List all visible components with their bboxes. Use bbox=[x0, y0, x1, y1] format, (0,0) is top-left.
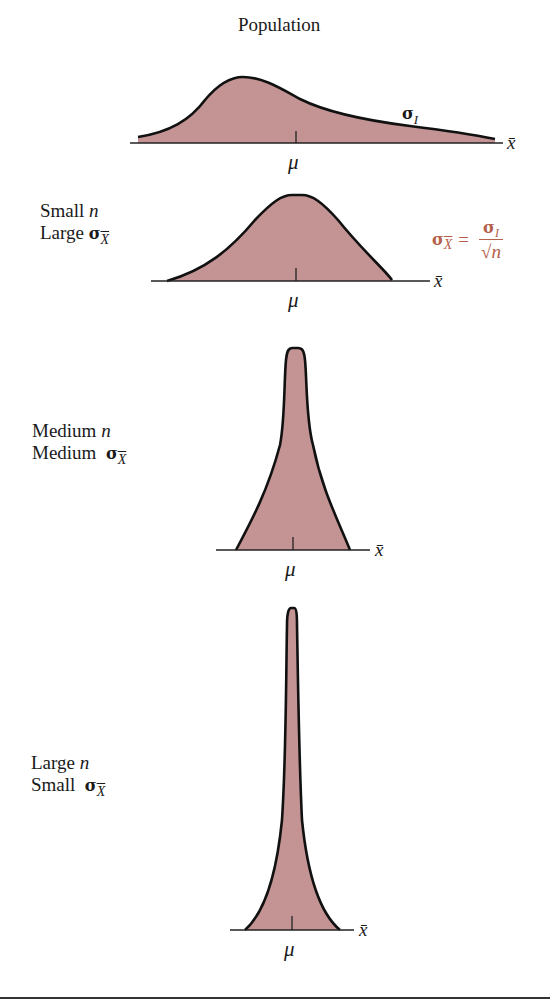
small-n-mean-label: μ bbox=[288, 288, 299, 313]
distribution-figure bbox=[0, 0, 550, 1004]
medium-n-mean-label: μ bbox=[285, 557, 296, 582]
small-n-distribution bbox=[151, 195, 430, 281]
population-title: Population bbox=[238, 14, 320, 36]
small-n-label: Small n Large σX bbox=[40, 200, 109, 246]
population-distribution bbox=[130, 77, 503, 143]
medium-n-axis-label: x̄ bbox=[375, 539, 383, 561]
medium-n-label: Medium n Medium σX bbox=[32, 420, 126, 466]
formula-fraction: σI √n bbox=[479, 216, 503, 263]
small-n-axis-label: x̄ bbox=[434, 270, 442, 292]
population-sigma-label: σI bbox=[402, 102, 418, 126]
standard-error-formula: σX = σI √n bbox=[432, 216, 503, 263]
large-n-label: Large n Small σX bbox=[31, 752, 105, 798]
population-axis-label: x̄ bbox=[507, 132, 515, 154]
medium-n-distribution bbox=[216, 348, 370, 550]
large-n-mean-label: μ bbox=[284, 937, 295, 962]
large-n-axis-label: x̄ bbox=[359, 919, 367, 941]
population-mean-label: μ bbox=[288, 150, 299, 175]
large-n-distribution bbox=[230, 608, 354, 930]
